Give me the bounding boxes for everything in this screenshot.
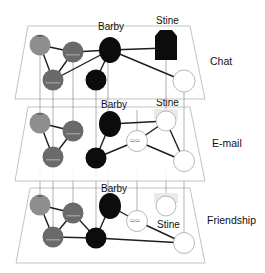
glasses-icon: ▭▭ [130, 217, 140, 223]
node-black [86, 148, 107, 169]
node-barby [99, 37, 121, 63]
node-stine [156, 111, 176, 131]
layer-email: ▭▭ Barby Stine E-mail [15, 90, 242, 181]
label-chat-stine: Stine [156, 15, 179, 26]
layer-label-chat: Chat [210, 55, 232, 67]
node-stine-ghost [156, 196, 176, 216]
node-grey-dark [43, 147, 64, 168]
node-black [86, 228, 107, 249]
node-white [174, 233, 195, 254]
layer-label-friendship: Friendship [207, 214, 256, 226]
multiplex-network-diagram: ▭▭ Barby Stine Friendship [0, 0, 265, 273]
node-white [174, 151, 195, 172]
node-barby [99, 111, 121, 137]
node-grey-dark [43, 227, 64, 248]
node-grey-light [30, 113, 51, 134]
label-chat-barby: Barby [98, 21, 124, 32]
label-friendship-stine: Stine [157, 219, 180, 230]
label-email-barby: Barby [101, 99, 127, 110]
node-grey-light [30, 35, 51, 56]
node-grey-light [30, 195, 51, 216]
node-barby [99, 193, 121, 219]
node-white [173, 70, 195, 92]
node-grey-dark [63, 203, 84, 224]
node-grey-dark [63, 42, 84, 63]
node-stine [155, 30, 177, 60]
layer-chat: Barby Stine Chat [15, 15, 232, 99]
label-friendship-barby: Barby [101, 183, 127, 194]
layer-friendship: ▭▭ Barby Stine Friendship [16, 170, 256, 263]
node-grey-dark [63, 121, 84, 142]
node-black [86, 70, 107, 91]
layer-label-email: E-mail [212, 137, 242, 149]
glasses-icon: ▭▭ [130, 137, 140, 143]
node-grey-dark [43, 70, 64, 91]
